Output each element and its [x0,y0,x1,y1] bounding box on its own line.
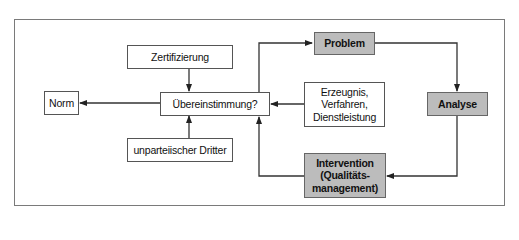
node-uebereinstimmung-label: Übereinstimmung? [173,98,258,111]
node-dritter-label: unparteiischer Dritter [133,144,226,157]
node-erzeugnis: Erzeugnis, Verfahren, Dienstleistung [304,82,385,127]
node-zertifizierung: Zertifizierung [127,45,233,69]
node-problem: Problem [314,32,375,55]
node-analyse: Analyse [427,92,488,116]
node-erzeugnis-label: Erzeugnis, Verfahren, Dienstleistung [313,86,376,124]
arrow-intervention-to-uebereinstimmung [259,117,304,176]
node-intervention-label: Intervention (Qualitäts- management) [312,157,378,195]
node-problem-label: Problem [324,37,365,50]
node-uebereinstimmung: Übereinstimmung? [160,92,270,116]
node-norm-label: Norm [49,97,74,110]
node-analyse-label: Analyse [438,98,477,111]
arrow-analyse-to-intervention [387,115,457,176]
node-unparteiischer-dritter: unparteiischer Dritter [127,138,233,162]
node-zertifizierung-label: Zertifizierung [151,51,209,64]
node-intervention: Intervention (Qualitäts- management) [304,153,386,198]
arrow-problem-to-analyse [374,43,457,91]
node-norm: Norm [44,91,79,115]
